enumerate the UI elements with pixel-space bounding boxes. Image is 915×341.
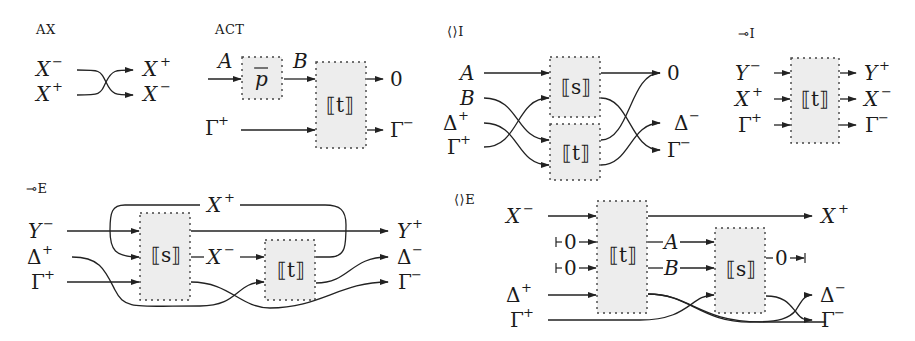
sup-minus: −	[835, 280, 846, 295]
label-a: A	[458, 61, 474, 85]
diagram-tensor-intro: ⟨⟩I ⟦s⟧ ⟦t⟧ A B Δ + Γ + 0 Δ − Γ −	[443, 24, 700, 180]
label-gamma: Γ	[447, 135, 461, 159]
ax-inputs: X − X +	[34, 54, 63, 106]
label-zero: 0	[667, 61, 680, 85]
proof-net-diagrams: AX X − X + X + X − ACT p ⟦t⟧ A B Γ + 0	[0, 0, 915, 341]
sup-plus: +	[42, 242, 53, 257]
label-delta: Δ	[506, 283, 520, 307]
sup-plus: +	[412, 216, 423, 231]
ax-outputs: X + X −	[141, 54, 171, 106]
sup-plus: +	[838, 201, 849, 216]
box-label-s: ⟦s⟧	[726, 257, 756, 281]
sup-plus: +	[460, 132, 471, 147]
label-x: X	[862, 87, 879, 111]
box-label-t: ⟦t⟧	[277, 258, 305, 282]
wire-delta-out	[601, 123, 660, 165]
diagram-lollipop-intro: ⊸I ⟦t⟧ Y − X + Γ + Y + X − Γ −	[733, 26, 892, 143]
box-label-s: ⟦s⟧	[151, 243, 181, 267]
label-x: X	[141, 57, 158, 81]
rule-label-ax: AX	[35, 22, 56, 37]
label-gamma: Γ	[390, 118, 404, 142]
sup-minus: −	[43, 216, 54, 231]
label-zero: 0	[564, 230, 577, 254]
label-x: X	[205, 245, 222, 269]
wire-t-zero	[601, 73, 660, 140]
sup-plus: +	[752, 84, 763, 99]
diagram-ax: AX X − X + X + X −	[34, 22, 171, 106]
label-x: X	[141, 82, 158, 106]
label-gamma: Γ	[865, 113, 879, 137]
rule-label-tensor-intro: ⟨⟩I	[447, 24, 464, 39]
label-x: X	[34, 57, 51, 81]
label-y: Y	[735, 61, 750, 85]
label-gamma: Γ	[31, 270, 45, 294]
box-label-s: ⟦s⟧	[561, 75, 591, 99]
sup-plus: +	[751, 110, 762, 125]
sup-minus: −	[881, 84, 892, 99]
diagram-tensor-elim: ⟨⟩E ⟦t⟧ ⟦s⟧ X − 0 0 Δ + Γ + X + A B 0	[454, 192, 849, 332]
label-delta: Δ	[674, 111, 688, 135]
label-x: X	[819, 204, 836, 228]
sup-minus: −	[411, 267, 422, 282]
wire-b	[484, 98, 549, 140]
rule-label-lollipop-intro: ⊸I	[738, 26, 755, 41]
label-a: A	[662, 230, 678, 254]
sup-minus: −	[224, 242, 235, 257]
label-zero: 0	[775, 246, 788, 270]
sup-minus: −	[680, 135, 691, 150]
sup-plus: +	[521, 280, 532, 295]
label-b: B	[459, 86, 475, 110]
sup-plus: +	[44, 267, 55, 282]
box-label-t: ⟦t⟧	[609, 243, 637, 267]
label-y: Y	[864, 61, 879, 85]
label-gamma: Γ	[510, 308, 524, 332]
diagram-act: ACT p ⟦t⟧ A B Γ + 0 Γ −	[205, 22, 414, 148]
label-delta: Δ	[820, 283, 834, 307]
box-label-t: ⟦t⟧	[562, 141, 590, 165]
label-a: A	[216, 49, 232, 73]
box-label-t: ⟦t⟧	[801, 87, 829, 111]
label-y: Y	[397, 219, 412, 243]
sup-plus: +	[523, 305, 534, 320]
label-gamma: Γ	[398, 270, 412, 294]
label-delta: Δ	[397, 245, 411, 269]
label-x: X	[34, 82, 51, 106]
label-x: X	[504, 204, 521, 228]
label-delta: Δ	[443, 111, 457, 135]
label-x: X	[205, 193, 222, 217]
sup-plus: +	[160, 54, 171, 69]
wire-delta-out	[316, 257, 388, 283]
label-b: B	[292, 49, 308, 73]
sup-minus: −	[160, 79, 171, 94]
label-x: X	[733, 87, 750, 111]
sup-minus: −	[689, 108, 700, 123]
sup-plus: +	[224, 190, 235, 205]
label-gamma: Γ	[667, 138, 681, 162]
diagram-lollipop-elim: ⊸E ⟦s⟧ ⟦t⟧ Y − Δ + Γ + X + X − Y + Δ − Γ…	[26, 181, 423, 308]
wire-cross	[77, 70, 133, 95]
sup-minus: −	[834, 305, 845, 320]
wire-cross	[77, 70, 133, 95]
sup-plus: +	[879, 58, 890, 73]
label-gamma: Γ	[738, 113, 752, 137]
sup-minus: −	[523, 201, 534, 216]
sup-minus: −	[878, 110, 889, 125]
rule-label-lollipop-elim: ⊸E	[26, 181, 48, 196]
label-delta: Δ	[27, 245, 41, 269]
sup-minus: −	[403, 115, 414, 130]
label-b: B	[663, 256, 679, 280]
box-label-t: ⟦t⟧	[326, 93, 354, 117]
sup-minus: −	[412, 242, 423, 257]
sup-plus: +	[52, 79, 63, 94]
box-label-pbar: p	[255, 67, 268, 91]
label-gamma: Γ	[205, 116, 219, 140]
label-y: Y	[28, 219, 43, 243]
sup-plus: +	[218, 113, 229, 128]
rule-label-tensor-elim: ⟨⟩E	[454, 192, 475, 207]
rule-label-act: ACT	[214, 22, 245, 37]
sup-plus: +	[458, 108, 469, 123]
label-zero: 0	[390, 67, 403, 91]
sup-minus: −	[750, 58, 761, 73]
wire-gamma-in	[484, 98, 549, 147]
wire-delta-in	[484, 123, 549, 165]
